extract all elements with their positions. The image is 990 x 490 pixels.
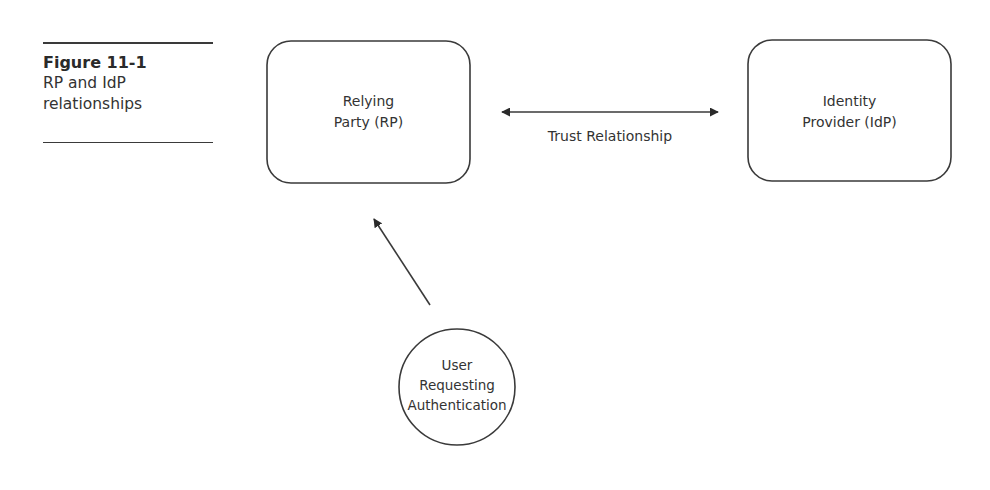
relying-party-line-2: Party (RP) [267,112,470,133]
user-line-2: Requesting [397,375,517,395]
identity-provider-label: Identity Provider (IdP) [748,91,951,133]
user-line-3: Authentication [397,395,517,415]
user-label: User Requesting Authentication [397,355,517,415]
user-line-1: User [397,355,517,375]
identity-provider-line-1: Identity [748,91,951,112]
relying-party-line-1: Relying [267,91,470,112]
auth-request-arrow [374,219,430,305]
trust-relationship-label: Trust Relationship [500,126,720,147]
relying-party-label: Relying Party (RP) [267,91,470,133]
identity-provider-line-2: Provider (IdP) [748,112,951,133]
diagram-canvas [0,0,990,490]
